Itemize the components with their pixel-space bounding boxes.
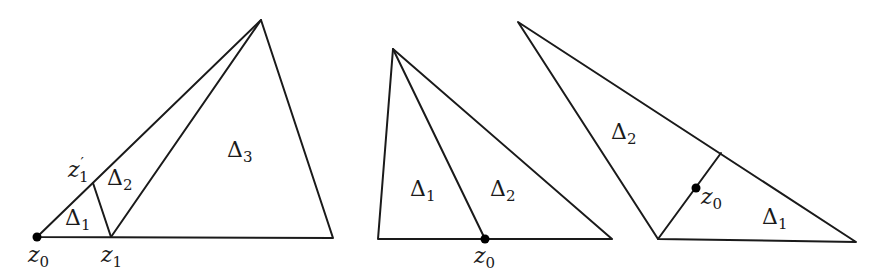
left-edge-z1-z1prime — [93, 183, 111, 237]
right-label-delta1: Δ1 — [762, 204, 787, 233]
middle-edge-apex-z0 — [393, 49, 485, 239]
left-point-z0 — [33, 233, 42, 242]
left-label-delta3: Δ3 — [227, 137, 252, 166]
left-label-delta1: Δ1 — [65, 205, 90, 234]
right-label-z0: z0 — [700, 184, 722, 213]
left-edge-z1-apex — [111, 20, 261, 237]
middle-label-delta2: Δ2 — [490, 176, 515, 205]
panel-right: Δ1 Δ2 z0 — [518, 22, 856, 242]
middle-label-delta1: Δ1 — [410, 176, 435, 205]
middle-label-z0: z0 — [473, 243, 495, 272]
right-point-z0 — [692, 184, 701, 193]
triangle-subdivision-figure: Δ1 Δ2 Δ3 z′1 z0 z1 Δ1 Δ2 z0 Δ1 Δ2 z0 — [0, 0, 888, 279]
panel-left: Δ1 Δ2 Δ3 z′1 z0 z1 — [27, 20, 333, 271]
left-label-delta2: Δ2 — [107, 165, 132, 194]
right-label-delta2: Δ2 — [611, 119, 636, 148]
left-label-z0: z0 — [27, 242, 49, 271]
left-label-z1: z1 — [100, 242, 122, 271]
right-outer-triangle — [518, 22, 856, 242]
middle-outer-triangle — [378, 49, 612, 239]
left-label-z1prime: z′1 — [67, 154, 89, 186]
panel-middle: Δ1 Δ2 z0 — [378, 49, 612, 272]
